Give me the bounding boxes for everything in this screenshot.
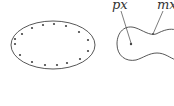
diagram-canvas: px mx [0, 0, 174, 106]
ellipse-boundary [11, 21, 95, 69]
mx-leader-line [153, 11, 163, 34]
point-mx [152, 33, 154, 35]
peanut-curve [117, 27, 174, 60]
label-mx: mx [157, 0, 174, 12]
label-px: px [112, 0, 128, 12]
point-px [130, 43, 132, 45]
ellipse-dots [14, 23, 89, 66]
